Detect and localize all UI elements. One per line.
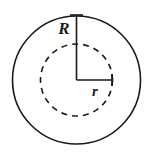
concentric-circles-diagram: R r	[0, 0, 147, 155]
label-inner-radius-r: r	[92, 83, 98, 99]
label-outer-radius-R: R	[57, 19, 69, 38]
diagram-background	[0, 0, 147, 155]
figure-container: R r	[0, 0, 147, 155]
